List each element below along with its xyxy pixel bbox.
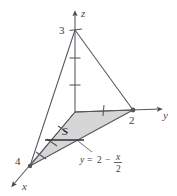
tetrahedron-diagram: z y x 3 2 4 S y = 2 − x 2 [0,0,177,196]
equation-leader-line [78,141,92,152]
equation-numerator: x [115,152,121,162]
figure-container: z y x 3 2 4 S y = 2 − x 2 [0,0,177,196]
equation-equals: = [87,155,92,165]
vertex-dot-x4 [28,164,32,168]
region-label-s: S [62,125,68,137]
x-axis-label: x [21,180,27,192]
x-tick-label-4: 4 [15,155,21,167]
equation-denominator: 2 [116,164,121,174]
z-tick-label-3: 3 [59,24,65,36]
z-tick-3 [70,29,83,31]
vertex-dot-y2 [131,108,136,113]
edge-apex-to-y2 [75,30,133,110]
equation-lhs: y [79,155,85,165]
y-tick-label-2: 2 [129,114,135,126]
equation-minus: − [105,155,110,165]
boundary-equation: y = 2 − x 2 [79,152,122,174]
y-axis-label: y [162,109,168,121]
equation-constant: 2 [97,155,102,165]
z-axis-label: z [80,7,86,19]
